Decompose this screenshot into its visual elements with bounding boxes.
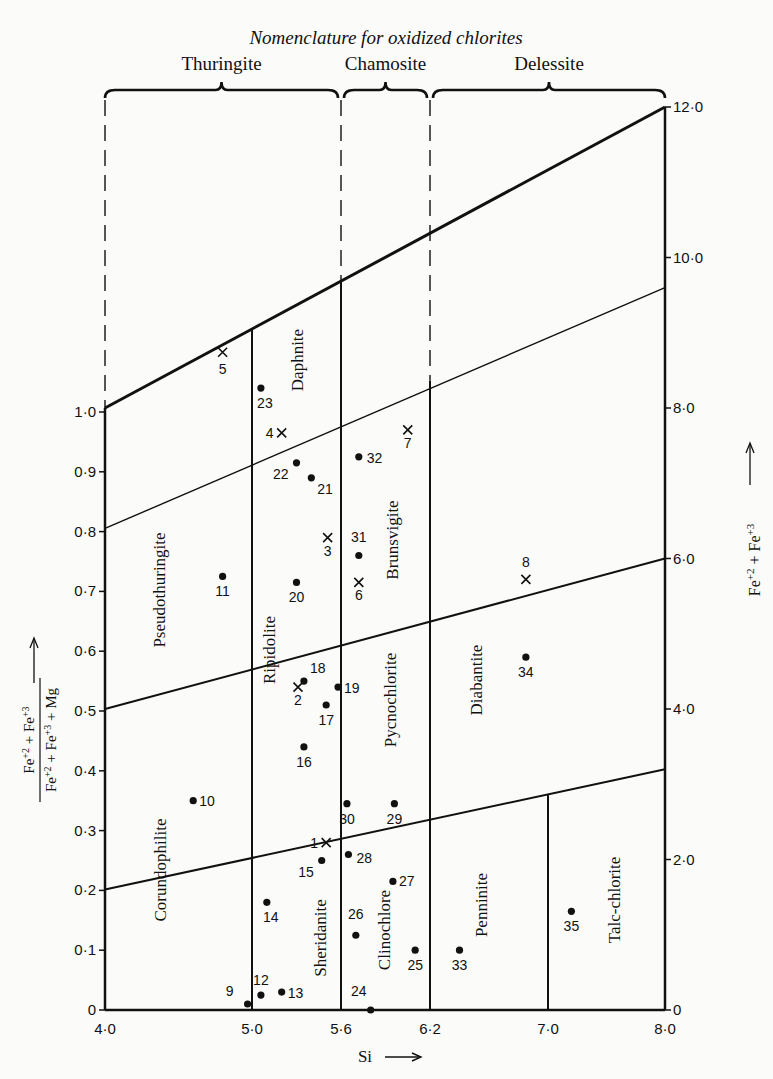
point-label-15: 15 <box>298 864 314 880</box>
y-left-tick-label: 0·1 <box>74 941 96 958</box>
point-label-30: 30 <box>339 811 355 827</box>
data-point-25 <box>412 947 419 954</box>
region-label-talc-chlorite: Talc-chlorite <box>605 857 624 944</box>
data-point-31 <box>355 552 362 559</box>
data-point-9 <box>244 1000 251 1007</box>
point-label-1: 1 <box>310 835 318 851</box>
y-left-tick-label: 0·4 <box>74 762 96 779</box>
point-label-33: 33 <box>452 957 468 973</box>
data-point-16 <box>300 743 307 750</box>
y-right-tick-label: 10·0 <box>673 249 703 266</box>
point-label-14: 14 <box>263 909 279 925</box>
data-point-cross-5 <box>218 348 227 357</box>
point-label-17: 17 <box>318 712 334 728</box>
y-left-tick-label: 0·7 <box>74 582 96 599</box>
data-point-20 <box>293 579 300 586</box>
y-left-tick-label: 1·0 <box>74 403 96 420</box>
y-left-tick-label: 0·5 <box>74 702 96 719</box>
data-point-cross-2 <box>293 683 302 692</box>
point-label-18: 18 <box>310 660 326 676</box>
y-left-tick-label: 0·9 <box>74 463 96 480</box>
point-label-23: 23 <box>257 395 273 411</box>
data-point-13 <box>278 988 285 995</box>
brace-thuringite <box>105 82 338 98</box>
chlorite-nomenclature-chart: Nomenclature for oxidized chlorites Thur… <box>0 0 773 1079</box>
boundary-line-upper <box>105 288 665 529</box>
data-point-17 <box>323 701 330 708</box>
region-label-diabantite: Diabantite <box>467 645 486 716</box>
point-label-10: 10 <box>199 793 215 809</box>
data-point-15 <box>318 857 325 864</box>
y-left-tick-label: 0 <box>88 1001 96 1018</box>
y-left-tick-label: 0·3 <box>74 822 96 839</box>
point-label-26: 26 <box>348 906 364 922</box>
point-label-21: 21 <box>317 481 333 497</box>
y-right-tick-label: 6·0 <box>673 550 695 567</box>
chart-canvas: Nomenclature for oxidized chlorites Thur… <box>0 0 773 1079</box>
point-label-13: 13 <box>288 985 304 1001</box>
x-tick-label: 5·6 <box>330 1020 352 1037</box>
point-label-7: 7 <box>404 435 412 451</box>
point-label-27: 27 <box>399 873 415 889</box>
point-label-32: 32 <box>367 450 383 466</box>
data-point-32 <box>355 453 362 460</box>
data-point-33 <box>456 947 463 954</box>
y-right-axis-title: Fe+2 + Fe+3 <box>744 523 763 596</box>
point-label-29: 29 <box>387 811 403 827</box>
region-label-daphnite: Daphnite <box>288 329 307 391</box>
chart-title: Nomenclature for oxidized chlorites <box>248 27 522 48</box>
point-label-28: 28 <box>356 850 372 866</box>
y-right-tick-label: 0 <box>673 1001 681 1018</box>
x-tick-label: 4·0 <box>94 1020 116 1037</box>
data-point-19 <box>334 683 341 690</box>
point-label-6: 6 <box>355 587 363 603</box>
data-point-22 <box>293 459 300 466</box>
point-label-3: 3 <box>324 543 332 559</box>
data-point-12 <box>257 991 264 998</box>
data-point-14 <box>263 899 270 906</box>
region-label-brunsvigite: Brunsvigite <box>383 500 402 579</box>
x-tick-label: 5·0 <box>241 1020 263 1037</box>
group-label-delessite: Delessite <box>514 53 584 74</box>
data-point-29 <box>391 800 398 807</box>
y-right-tick-label: 8·0 <box>673 399 695 416</box>
group-label-thuringite: Thuringite <box>181 53 261 74</box>
data-point-34 <box>522 654 529 661</box>
y-left-tick-label: 0·6 <box>74 642 96 659</box>
point-label-12: 12 <box>253 972 269 988</box>
data-point-27 <box>389 878 396 885</box>
y-left-axis-title: Fe+2 + Fe+3Fe+2 + Fe+3 + Mg <box>20 678 60 802</box>
group-label-chamosite: Chamosite <box>345 53 426 74</box>
y-right-title-text: Fe+2 + Fe+3 <box>744 523 763 596</box>
y-right-tick-label: 2·0 <box>673 851 695 868</box>
point-label-2: 2 <box>294 692 302 708</box>
data-point-30 <box>343 800 350 807</box>
data-point-cross-7 <box>403 425 412 434</box>
region-labels: PseudothuringiteCorundophiliteDaphniteRi… <box>150 329 624 977</box>
point-label-25: 25 <box>407 957 423 973</box>
boundary-line-lower <box>105 769 665 889</box>
data-point-23 <box>257 384 264 391</box>
region-label-sheridanite: Sheridanite <box>311 899 330 976</box>
point-label-4: 4 <box>266 425 274 441</box>
data-point-21 <box>308 474 315 481</box>
point-label-16: 16 <box>296 754 312 770</box>
x-tick-label: 6·2 <box>419 1020 441 1037</box>
y-left-tick-label: 0·8 <box>74 523 96 540</box>
y-left-denominator: Fe+2 + Fe+3 + Mg <box>42 687 60 792</box>
point-label-8: 8 <box>522 554 530 570</box>
x-tick-label: 8·0 <box>654 1020 676 1037</box>
point-label-11: 11 <box>215 583 230 599</box>
data-point-cross-4 <box>277 428 286 437</box>
y-left-numerator: Fe+2 + Fe+3 <box>20 706 38 773</box>
data-point-10 <box>190 797 197 804</box>
group-brackets: ThuringiteChamositeDelessite <box>105 53 665 98</box>
point-label-19: 19 <box>344 680 360 696</box>
region-label-corundophilite: Corundophilite <box>151 819 170 922</box>
point-label-20: 20 <box>289 589 305 605</box>
boundary-line-top <box>105 107 665 408</box>
x-tick-label: 7·0 <box>537 1020 559 1037</box>
point-label-22: 22 <box>273 466 289 482</box>
data-point-35 <box>568 908 575 915</box>
brace-chamosite <box>344 82 427 98</box>
